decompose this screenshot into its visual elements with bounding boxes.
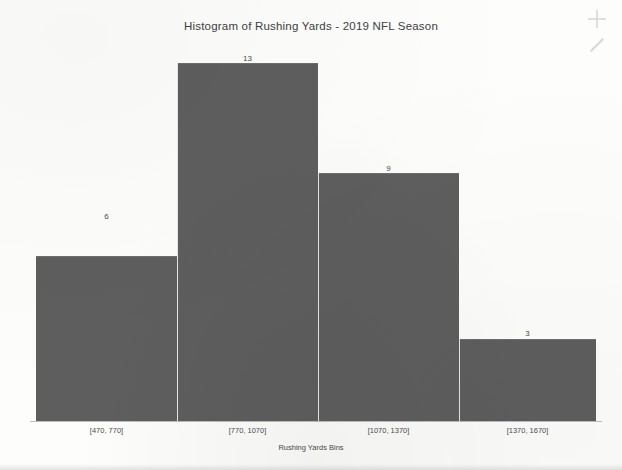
bar[interactable] — [36, 256, 177, 421]
bar[interactable] — [177, 63, 318, 421]
x-tick-label: [470, 770] — [36, 426, 177, 435]
x-axis-title: Rushing Yards Bins — [0, 443, 622, 452]
toolbar — [586, 8, 614, 60]
bar[interactable] — [318, 173, 459, 421]
bar-divider — [318, 63, 319, 421]
bar-value-label: 3 — [459, 329, 596, 338]
crosshair-plus-icon[interactable] — [586, 8, 608, 30]
bar-value-label: 13 — [177, 54, 318, 63]
bar[interactable] — [459, 339, 596, 421]
x-tick-label: [770, 1070] — [177, 426, 318, 435]
plot-area: 6 13 9 3 — [36, 58, 596, 421]
scanned-chart-page: Histogram of Rushing Yards - 2019 NFL Se… — [0, 0, 622, 470]
x-tick-label: [1370, 1670] — [459, 426, 596, 435]
bar-value-label: 6 — [36, 212, 177, 221]
scan-bottom-shadow — [0, 464, 622, 470]
page-title: Histogram of Rushing Yards - 2019 NFL Se… — [0, 20, 622, 32]
pencil-icon[interactable] — [586, 34, 608, 56]
bar-divider — [459, 173, 460, 421]
x-axis-line — [30, 421, 602, 422]
x-tick-label: [1070, 1370] — [318, 426, 459, 435]
bar-divider — [177, 63, 178, 421]
bar-value-label: 9 — [318, 164, 459, 173]
